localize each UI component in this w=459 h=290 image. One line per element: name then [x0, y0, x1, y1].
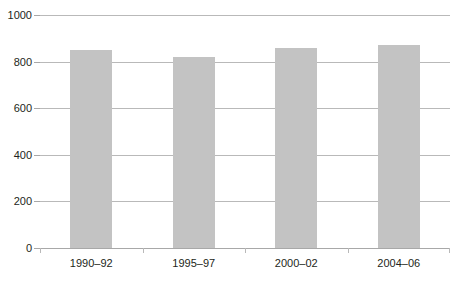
- y-axis-tick-label: 1000: [0, 10, 32, 21]
- bar-chart: 02004006008001000 1990–921995–972000–022…: [0, 0, 459, 290]
- x-axis-separator: [449, 248, 450, 253]
- y-axis-tick-label: 0: [0, 243, 32, 254]
- x-axis-tick-label: 1995–97: [172, 258, 215, 269]
- y-axis-tick-label: 800: [0, 56, 32, 67]
- bar: [173, 57, 215, 248]
- x-axis-separator: [245, 248, 246, 253]
- bar: [70, 50, 112, 248]
- x-axis-tick-label: 2004–06: [377, 258, 420, 269]
- x-axis-separator: [143, 248, 144, 253]
- y-axis-tick-label: 400: [0, 149, 32, 160]
- gridline-1000: [40, 15, 450, 16]
- x-axis-separator: [348, 248, 349, 253]
- y-axis-tick-label: 600: [0, 103, 32, 114]
- bar: [378, 45, 420, 248]
- x-axis-tick-label: 1990–92: [70, 258, 113, 269]
- x-axis-label-group: 1990–921995–972000–022004–06: [40, 258, 450, 278]
- bar: [275, 48, 317, 248]
- x-axis-separator: [40, 248, 41, 253]
- y-axis-tick-label: 200: [0, 196, 32, 207]
- chart-title: [0, 0, 459, 3]
- plot-area: [40, 15, 450, 248]
- y-axis-label-group: 02004006008001000: [0, 0, 32, 290]
- x-axis-tick-label: 2000–02: [275, 258, 318, 269]
- x-axis-separator-group: [40, 248, 450, 254]
